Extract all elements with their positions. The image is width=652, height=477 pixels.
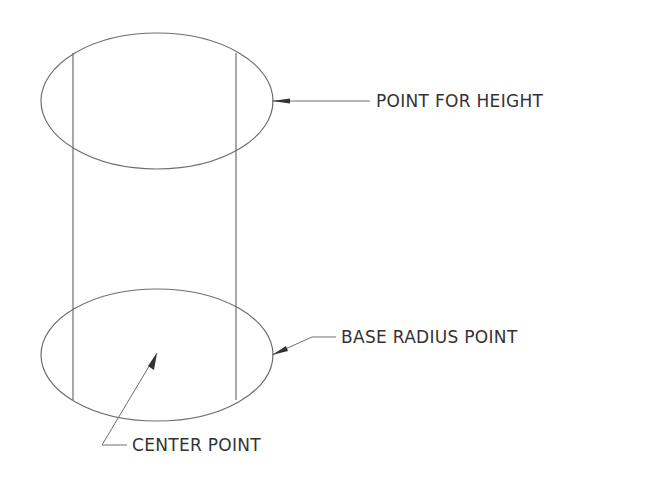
label-center-point: CENTER POINT	[132, 435, 261, 455]
height-leader-arrow	[272, 99, 370, 104]
base-ellipse	[41, 289, 273, 421]
top-ellipse	[41, 33, 273, 169]
center-leader-arrow	[102, 353, 157, 445]
label-base-radius-point: BASE RADIUS POINT	[341, 327, 518, 347]
cylinder-diagram: POINT FOR HEIGHT BASE RADIUS POINT CENTE…	[0, 0, 652, 477]
label-point-for-height: POINT FOR HEIGHT	[376, 91, 544, 111]
base-radius-leader-arrow	[272, 337, 336, 355]
